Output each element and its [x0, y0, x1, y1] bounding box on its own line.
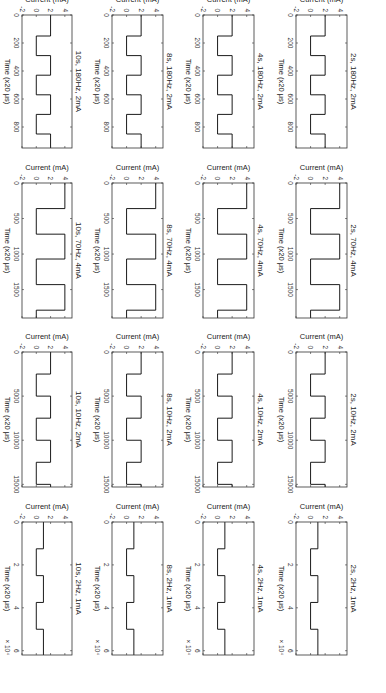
chart-svg: 10s, 10Hz, 2mA050001000015000-2024Time (… [0, 322, 102, 517]
x-tick-label: 500 [13, 213, 20, 224]
current-waveform [311, 522, 318, 655]
chart-svg: 10s, 180Hz, 2mA0200400600800-2024Time (x… [0, 0, 102, 178]
y-axis-label: Current (mA) [207, 502, 251, 511]
y-tick-label: 0 [307, 176, 314, 180]
y-tick-label: 4 [337, 176, 344, 180]
chart-title: 10s, 2Hz, 1mA [74, 562, 83, 615]
chart-title: 2s, 180Hz, 2mA [349, 53, 358, 111]
upright-canvas: 2s, 180Hz, 2mA0200400600800-2024Time (x2… [0, 0, 386, 693]
y-tick-label: 2 [229, 345, 236, 349]
x-tick-label: 5000 [13, 389, 20, 404]
x-tick-label: 0 [287, 520, 294, 524]
y-tick-label: -2 [293, 6, 300, 12]
y-tick-label: 0 [307, 345, 314, 349]
y-tick-label: 4 [153, 345, 160, 349]
x-tick-label: 10000 [13, 431, 20, 449]
axes-frame [22, 522, 72, 655]
y-tick-label: 4 [62, 515, 69, 519]
x-tick-label: 15000 [103, 475, 110, 493]
x-tick-label: 15000 [194, 475, 201, 493]
x-tick-label: 800 [287, 122, 294, 133]
y-tick-label: -2 [293, 513, 300, 519]
x-tick-label: 0 [103, 520, 110, 524]
y-tick-label: 4 [337, 345, 344, 349]
current-waveform [218, 183, 247, 318]
y-axis-label: Current (mA) [116, 502, 160, 511]
x-tick-label: 500 [194, 213, 201, 224]
x-tick-label: 600 [287, 94, 294, 105]
chart-title: 4s, 10Hz, 2mA [256, 393, 265, 446]
chart-title: 4s, 2Hz, 1mA [256, 564, 265, 613]
x-tick-label: 2 [103, 563, 110, 567]
x-tick-label: 400 [103, 66, 110, 77]
y-axis-label: Current (mA) [300, 0, 344, 4]
chart-panel: 10s, 70Hz, 4mA050010001500-2024Time (x20… [0, 153, 102, 348]
current-waveform [218, 15, 233, 148]
y-tick-label: 0 [214, 8, 221, 12]
y-axis-label: Current (mA) [300, 163, 344, 172]
x-multiplier-label: × 10⁴ [4, 639, 11, 655]
y-tick-label: 2 [138, 176, 145, 180]
x-tick-label: 800 [13, 122, 20, 133]
x-tick-label: 10000 [103, 431, 110, 449]
chart-title: 4s, 180Hz, 2mA [256, 53, 265, 111]
y-tick-label: 2 [47, 345, 54, 349]
x-tick-label: 0 [13, 13, 20, 17]
axes-frame [112, 522, 163, 655]
x-tick-label: 6 [194, 649, 201, 653]
y-tick-label: 4 [62, 176, 69, 180]
axes-frame [296, 352, 347, 487]
x-tick-label: 600 [13, 94, 20, 105]
x-tick-label: 15000 [13, 475, 20, 493]
y-axis-label: Current (mA) [207, 332, 251, 341]
y-axis-label: Current (mA) [300, 502, 344, 511]
y-tick-label: -2 [19, 6, 26, 12]
y-tick-label: 4 [153, 8, 160, 12]
y-axis-label: Current (mA) [25, 0, 69, 4]
x-tick-label: 10000 [287, 431, 294, 449]
current-waveform [36, 183, 65, 318]
x-tick-label: 2 [194, 563, 201, 567]
x-tick-label: 0 [13, 350, 20, 354]
current-waveform [36, 352, 50, 487]
x-tick-label: 0 [194, 13, 201, 17]
y-tick-label: 0 [33, 8, 40, 12]
x-tick-label: 600 [194, 94, 201, 105]
chart-svg: 10s, 70Hz, 4mA050010001500-2024Time (x20… [0, 153, 102, 348]
y-tick-label: 0 [214, 515, 221, 519]
x-tick-label: 1000 [103, 247, 110, 262]
x-tick-label: 0 [194, 350, 201, 354]
y-tick-label: 0 [123, 515, 130, 519]
x-tick-label: 1500 [103, 282, 110, 297]
x-tick-label: 6 [287, 649, 294, 653]
x-tick-label: 200 [13, 38, 20, 49]
x-tick-label: 400 [287, 66, 294, 77]
y-tick-label: 4 [337, 8, 344, 12]
y-tick-label: 2 [322, 345, 329, 349]
chart-svg: 10s, 2Hz, 1mA0246-2024Time (x20 μs)× 10⁴… [0, 492, 102, 685]
y-axis-label: Current (mA) [207, 0, 251, 4]
y-tick-label: -2 [200, 343, 207, 349]
current-waveform [218, 352, 233, 487]
chart-title: 8s, 2Hz, 1mA [165, 564, 174, 613]
figure-grid: 2s, 180Hz, 2mA0200400600800-2024Time (x2… [0, 0, 386, 693]
chart-title: 2s, 70Hz, 4mA [349, 224, 358, 277]
current-waveform [36, 522, 43, 655]
current-waveform [127, 352, 142, 487]
axes-frame [22, 352, 72, 487]
x-tick-label: 0 [13, 181, 20, 185]
y-axis-label: Current (mA) [116, 332, 160, 341]
x-tick-label: 0 [194, 181, 201, 185]
y-tick-label: 4 [244, 515, 251, 519]
y-tick-label: 2 [322, 176, 329, 180]
x-tick-label: 200 [194, 38, 201, 49]
x-tick-label: 200 [287, 38, 294, 49]
current-waveform [311, 15, 326, 148]
x-axis-label: Time (x20 μs) [3, 566, 12, 612]
y-tick-label: 2 [138, 345, 145, 349]
y-tick-label: -2 [109, 513, 116, 519]
y-tick-label: 4 [153, 176, 160, 180]
x-tick-label: 2 [13, 563, 20, 567]
x-axis-label: Time (x20 μs) [3, 59, 12, 105]
current-waveform [311, 183, 340, 318]
